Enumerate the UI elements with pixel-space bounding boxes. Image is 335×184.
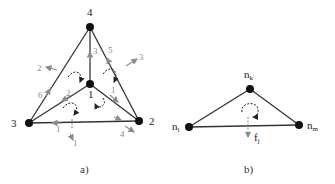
label-out-upper-left: 2: [37, 63, 42, 73]
diagram-canvas: 3 5 3 2 6 2 1 1 1 4 4 1 3: [0, 0, 335, 184]
force-label-fj: fj: [254, 131, 260, 145]
edge-3-2: [29, 121, 139, 123]
moment-arrow-face-bottom-left: [63, 103, 77, 115]
moment-arrow-b: [242, 104, 258, 117]
node-label-nm: nm: [307, 119, 319, 133]
edge-nl-nm: [189, 125, 299, 127]
label-out-upper-right: 3: [139, 52, 144, 62]
label-out-bottom-right: 4: [120, 129, 125, 139]
arrow-edge-1-2: [110, 95, 118, 102]
label-edge-1-3: 2: [66, 88, 71, 98]
arrow-edge-3-2-right: [114, 117, 121, 120]
node-3: [25, 119, 33, 127]
node-label-nk: nk: [244, 68, 254, 82]
label-edge-2-4: 5: [108, 45, 113, 55]
node-label-4: 4: [87, 6, 93, 18]
label-edge-1-4: 3: [93, 46, 98, 56]
caption-a: a): [80, 163, 89, 176]
node-label-2: 2: [149, 115, 155, 127]
caption-b: b): [244, 163, 254, 176]
node-2: [135, 117, 143, 125]
moment-arrow-face-right-upper: [103, 69, 116, 82]
arrow-out-upper-right: [126, 59, 137, 66]
figure-a: 3 5 3 2 6 2 1 1 1 4 4 1 3: [11, 6, 155, 176]
arrow-edge-3-4: [46, 89, 50, 96]
edge-nk-nl: [189, 89, 250, 127]
arrow-out-upper-left: [46, 67, 57, 70]
node-nl: [185, 123, 193, 131]
label-out-bottom: 1: [73, 138, 78, 148]
figure-b: nk nl nm fj b): [172, 68, 319, 176]
label-edge-3-2: 1: [56, 124, 61, 134]
node-label-1: 1: [88, 88, 94, 100]
moment-arrow-face-center: [95, 98, 104, 107]
node-nk: [246, 85, 254, 93]
arrow-out-bottom-right: [125, 126, 134, 132]
moment-arrow-face-left-upper: [68, 72, 81, 82]
node-4: [86, 23, 94, 31]
node-nm: [295, 121, 303, 129]
node-label-3: 3: [11, 117, 17, 129]
label-edge-1-2: 1: [111, 85, 116, 95]
edge-4-2: [90, 27, 139, 121]
node-label-nl: nl: [172, 120, 180, 134]
label-edge-3-4: 6: [38, 90, 43, 100]
node-1: [86, 80, 94, 88]
